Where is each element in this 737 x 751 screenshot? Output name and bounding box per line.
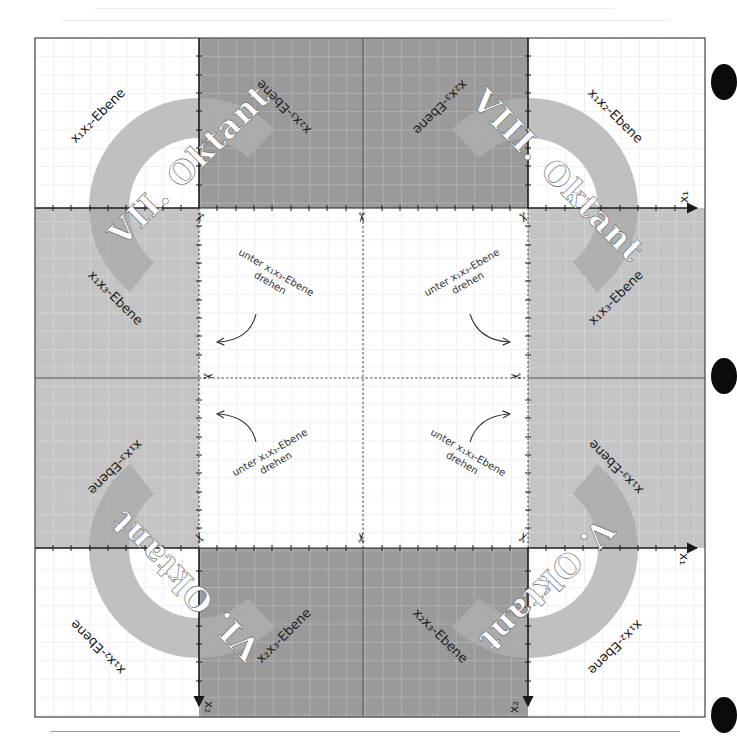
punch-hole — [711, 64, 737, 100]
punch-hole — [711, 697, 737, 733]
punch-hole — [711, 358, 737, 394]
footer-rule — [50, 731, 680, 732]
